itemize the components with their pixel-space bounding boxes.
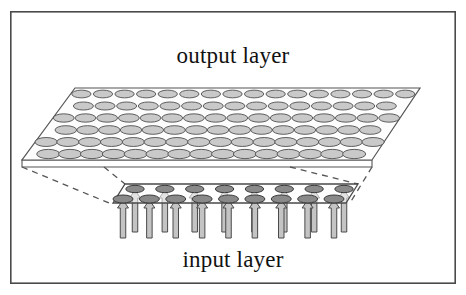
output-node bbox=[59, 149, 82, 158]
output-node bbox=[57, 138, 79, 147]
output-node bbox=[233, 149, 256, 158]
output-node bbox=[333, 102, 353, 110]
input-node-back bbox=[275, 185, 293, 192]
output-node bbox=[275, 138, 297, 147]
output-node bbox=[211, 149, 234, 158]
output-node bbox=[266, 90, 285, 98]
output-node bbox=[318, 138, 340, 147]
output-node bbox=[249, 114, 270, 122]
output-node bbox=[292, 114, 313, 122]
output-node bbox=[205, 114, 226, 122]
output-node bbox=[272, 126, 294, 135]
output-node bbox=[138, 102, 158, 110]
input-node-front bbox=[113, 195, 133, 203]
output-node bbox=[144, 138, 166, 147]
output-node bbox=[186, 126, 208, 135]
input-node-back bbox=[156, 185, 174, 192]
output-node bbox=[374, 90, 393, 98]
output-node bbox=[142, 126, 164, 135]
output-node bbox=[79, 138, 101, 147]
output-node bbox=[188, 138, 210, 147]
output-node bbox=[190, 149, 213, 158]
output-node bbox=[299, 149, 322, 158]
output-node bbox=[72, 90, 91, 98]
output-node bbox=[122, 138, 144, 147]
output-node bbox=[75, 114, 96, 122]
output-node bbox=[225, 102, 245, 110]
output-node bbox=[137, 90, 156, 98]
output-node bbox=[246, 102, 266, 110]
output-node bbox=[311, 102, 331, 110]
output-node bbox=[140, 114, 161, 122]
output-node bbox=[359, 126, 381, 135]
output-node bbox=[268, 102, 288, 110]
output-node bbox=[331, 90, 350, 98]
output-node bbox=[117, 102, 137, 110]
output-node bbox=[182, 102, 202, 110]
output-node bbox=[379, 114, 400, 122]
output-node bbox=[97, 114, 118, 122]
output-node bbox=[120, 126, 142, 135]
output-node bbox=[309, 90, 328, 98]
output-node bbox=[77, 126, 99, 135]
output-node bbox=[270, 114, 291, 122]
output-node bbox=[166, 138, 188, 147]
input-node-front bbox=[139, 195, 159, 203]
output-node bbox=[102, 149, 125, 158]
output-node bbox=[352, 90, 371, 98]
input-node-front bbox=[245, 195, 265, 203]
output-node bbox=[343, 149, 366, 158]
output-node bbox=[95, 102, 115, 110]
output-node bbox=[290, 102, 310, 110]
output-layer bbox=[22, 88, 420, 167]
output-node bbox=[244, 90, 263, 98]
input-layer-label: input layer bbox=[182, 247, 283, 272]
output-node bbox=[203, 102, 223, 110]
output-node bbox=[55, 126, 77, 135]
input-node-front bbox=[324, 195, 344, 203]
output-node bbox=[180, 90, 199, 98]
output-node bbox=[201, 90, 220, 98]
neural-network-diagram: output layer input layer bbox=[0, 0, 466, 295]
output-node bbox=[338, 126, 360, 135]
output-node bbox=[160, 102, 180, 110]
output-node bbox=[396, 90, 415, 98]
output-node bbox=[124, 149, 147, 158]
output-node bbox=[321, 149, 344, 158]
output-node bbox=[227, 114, 248, 122]
output-node bbox=[73, 102, 93, 110]
input-node-back bbox=[186, 185, 204, 192]
input-node-back bbox=[245, 185, 263, 192]
output-node bbox=[80, 149, 103, 158]
output-plane-edge bbox=[22, 160, 372, 167]
output-node bbox=[277, 149, 300, 158]
input-node-front bbox=[192, 195, 212, 203]
output-node bbox=[99, 126, 121, 135]
output-node bbox=[231, 138, 253, 147]
input-node-back bbox=[126, 185, 144, 192]
output-node bbox=[184, 114, 205, 122]
output-node bbox=[355, 102, 375, 110]
input-node-front bbox=[271, 195, 291, 203]
output-node bbox=[357, 114, 378, 122]
output-node bbox=[53, 114, 74, 122]
output-node bbox=[297, 138, 319, 147]
output-node bbox=[229, 126, 251, 135]
input-node-front bbox=[298, 195, 318, 203]
diagram-canvas: output layer input layer bbox=[0, 0, 466, 295]
output-node bbox=[316, 126, 338, 135]
output-node bbox=[251, 126, 273, 135]
output-node bbox=[288, 90, 307, 98]
output-node bbox=[253, 138, 275, 147]
input-node-front bbox=[219, 195, 239, 203]
output-node bbox=[223, 90, 242, 98]
output-node bbox=[118, 114, 139, 122]
output-node bbox=[164, 126, 186, 135]
output-node bbox=[146, 149, 169, 158]
output-node bbox=[93, 90, 112, 98]
output-node bbox=[209, 138, 231, 147]
input-node-back bbox=[305, 185, 323, 192]
output-node bbox=[294, 126, 316, 135]
input-node-back bbox=[215, 185, 233, 192]
output-layer-label: output layer bbox=[177, 43, 290, 68]
